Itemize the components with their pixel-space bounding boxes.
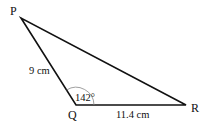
vertex-label-q: Q — [68, 108, 77, 122]
side-label-pq: 9 cm — [29, 65, 50, 76]
triangle-diagram: P Q R 9 cm 11.4 cm 142° — [0, 0, 207, 125]
angle-label-q: 142° — [75, 92, 95, 103]
triangle-pqr — [21, 18, 186, 105]
side-label-qr: 11.4 cm — [116, 109, 149, 120]
vertex-label-r: R — [191, 101, 199, 115]
vertex-label-p: P — [10, 4, 17, 18]
